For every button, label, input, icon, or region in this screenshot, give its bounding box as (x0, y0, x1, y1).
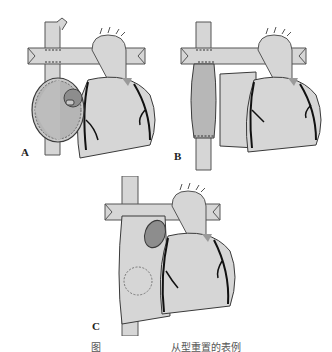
caption-right: 从型重置的表例 (171, 339, 241, 352)
panel-label-c: C (92, 320, 100, 332)
panel-c: C (80, 176, 260, 336)
figure-caption: 图 从型重置的表例 (0, 339, 332, 352)
panel-a: A (0, 0, 166, 176)
heart-diagram-b (166, 0, 332, 176)
caption-left: 图 (91, 339, 101, 352)
panel-b: B (166, 0, 332, 176)
heart-diagram-c (80, 176, 260, 336)
panel-label-a: A (21, 146, 29, 158)
panel-label-b: B (174, 150, 181, 162)
